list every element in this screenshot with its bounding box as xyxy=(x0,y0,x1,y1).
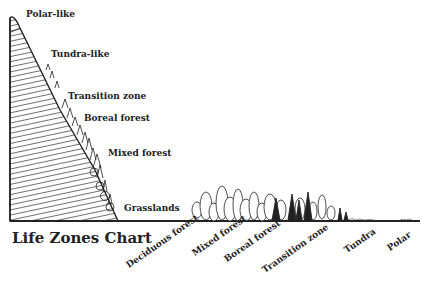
label-polar-like: Polar-like xyxy=(26,9,75,19)
label-mixed-forest: Mixed forest xyxy=(108,148,171,158)
label-tundra-like: Tundra-like xyxy=(51,49,109,59)
tundra-scrub xyxy=(348,219,412,221)
chart-title: Life Zones Chart xyxy=(12,229,152,247)
label-transition-zone: Transition zone xyxy=(68,91,146,101)
forest-band xyxy=(192,186,335,221)
label-grasslands: Grasslands xyxy=(124,203,180,213)
label-boreal-forest: Boreal forest xyxy=(84,113,150,123)
life-zones-diagram: Polar-like Tundra-like Transition zone B… xyxy=(0,0,432,284)
